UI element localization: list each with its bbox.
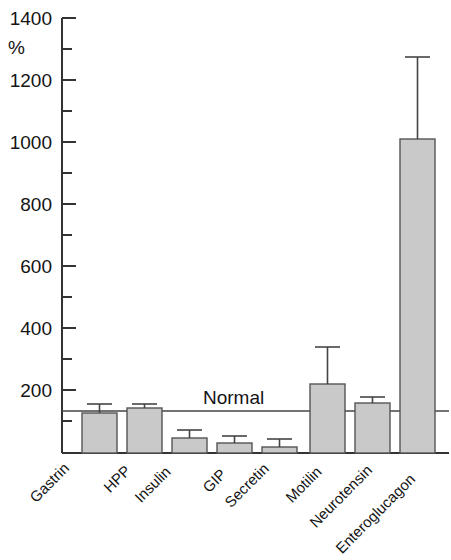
- bar-chart-figure: % 1400 1200 1000 800 600 400 200 Normal: [0, 0, 451, 560]
- bar-motilin: [310, 347, 345, 453]
- bar-gip: [217, 436, 252, 453]
- bar-hpp: [127, 404, 162, 453]
- axis-lines: [62, 18, 449, 453]
- bar-enteroglucagon: [400, 57, 435, 453]
- bar-neurotensin: [355, 397, 390, 453]
- bar-insulin: [172, 430, 207, 453]
- bar-secretin: [262, 439, 297, 453]
- y-axis-major-ticks: [62, 18, 76, 390]
- y-axis-minor-ticks: [62, 49, 72, 421]
